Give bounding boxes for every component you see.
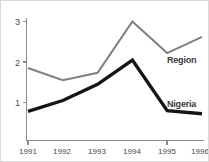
chart-plot-area: 3 2 1 Region Nigeria 1991 1992 1993 1994… — [1, 1, 209, 162]
x-tick-label-1995: 1995 — [158, 147, 176, 156]
series-label-nigeria: Nigeria — [167, 99, 197, 109]
x-tick-label-1996: 1996 — [191, 147, 209, 156]
x-tick-label-1991: 1991 — [19, 147, 37, 156]
y-tick-label-2: 2 — [15, 58, 20, 68]
x-tick-label-1994: 1994 — [123, 147, 141, 156]
x-tick-label-1993: 1993 — [88, 147, 106, 156]
y-tick-label-3: 3 — [15, 17, 20, 27]
x-tick-label-1992: 1992 — [53, 147, 71, 156]
y-tick-label-1: 1 — [15, 98, 20, 108]
series-label-region: Region — [167, 55, 196, 65]
line-chart-figure: 3 2 1 Region Nigeria 1991 1992 1993 1994… — [0, 0, 209, 162]
